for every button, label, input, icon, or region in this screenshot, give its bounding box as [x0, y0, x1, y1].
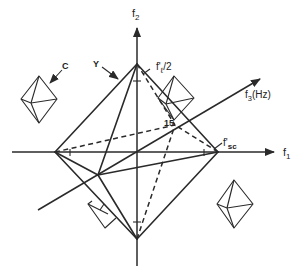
fsc-label: f'sc [223, 137, 237, 151]
small-octahedron-upper [158, 76, 194, 120]
octahedron-frequency-diagram: f2 f1 f3(Hz) C Y f'ℓ/2 f'sc 15 [0, 0, 298, 277]
f1-axis-label: f1 [283, 146, 291, 161]
small-octahedron-lower-right [217, 180, 253, 228]
c-label: C [62, 61, 69, 71]
small-octahedron-c [21, 76, 57, 123]
fl-half-label: f'ℓ/2 [156, 61, 172, 75]
label-pointers [50, 67, 222, 149]
f2-axis-label: f2 [132, 7, 140, 22]
f3-axis-label: f3(Hz) [245, 89, 271, 103]
small-octahedron-lower [88, 201, 116, 228]
y-label: Y [93, 59, 99, 69]
diagram-canvas: f2 f1 f3(Hz) C Y f'ℓ/2 f'sc 15 [0, 0, 298, 277]
point-15-label: 15 [164, 118, 174, 128]
